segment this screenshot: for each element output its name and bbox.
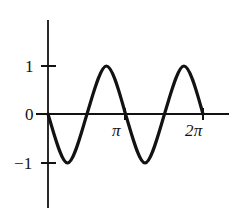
y-axis-label-zero: 0 [25, 106, 34, 123]
plot-area [0, 0, 240, 208]
sine-wave-figure: 1 0 −1 π 2π [0, 0, 240, 208]
x-axis-label-pi: π [112, 122, 121, 139]
y-axis-label-one: 1 [25, 58, 34, 75]
y-axis-label-minus-one: −1 [14, 155, 33, 172]
x-axis-label-two-pi: 2π [185, 122, 202, 139]
